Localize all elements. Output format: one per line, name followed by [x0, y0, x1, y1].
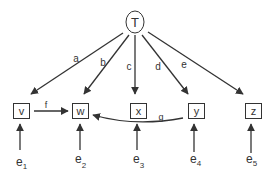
observed-node-v: v: [14, 104, 30, 119]
svg-text:z: z: [251, 105, 257, 117]
loading-label-b: b: [100, 57, 106, 68]
error-label-e1: e1: [16, 155, 28, 171]
loading-label-e: e: [181, 59, 187, 70]
observed-node-y: y: [189, 104, 205, 119]
observed-node-w: w: [73, 104, 89, 119]
observed-node-x: x: [131, 104, 147, 119]
svg-text:y: y: [194, 105, 200, 117]
error-label-e3: e3: [133, 152, 145, 170]
loading-label-a: a: [73, 53, 79, 64]
arrow-T-z: [148, 32, 243, 94]
path-label-f: f: [45, 100, 48, 110]
loading-label-d: d: [155, 61, 161, 72]
path-diagram: T a b c d e v w x y z f g: [0, 0, 274, 187]
error-label-e4: e4: [190, 152, 202, 168]
loading-arrows: [31, 32, 243, 94]
path-label-g: g: [158, 112, 163, 122]
error-label-e5: e5: [246, 152, 258, 168]
latent-label: T: [131, 15, 139, 30]
svg-text:v: v: [19, 105, 25, 117]
svg-text:x: x: [136, 105, 142, 117]
observed-node-z: z: [246, 104, 262, 119]
svg-text:w: w: [76, 105, 85, 117]
error-label-e2: e2: [75, 152, 87, 170]
error-arrows: [20, 124, 251, 153]
loading-label-c: c: [127, 61, 132, 72]
latent-node-T: T: [126, 11, 144, 33]
